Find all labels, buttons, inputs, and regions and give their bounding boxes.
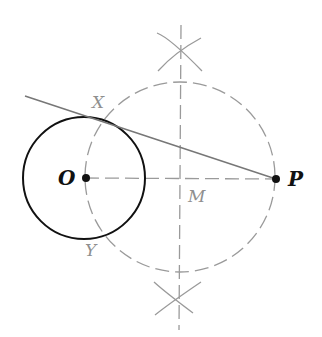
- perpendicular-bisector-line: [179, 25, 181, 330]
- point-P-dot: [272, 175, 280, 183]
- label-O: O: [58, 166, 76, 190]
- label-P: P: [287, 167, 304, 191]
- label-M: M: [187, 186, 206, 206]
- tangent-construction-diagram: O P M X Y: [0, 0, 322, 337]
- label-X: X: [90, 92, 105, 112]
- point-O-dot: [82, 174, 90, 182]
- bisector-arcs-top: [157, 33, 202, 71]
- label-Y: Y: [85, 240, 98, 260]
- bisector-arcs-bottom: [154, 282, 201, 315]
